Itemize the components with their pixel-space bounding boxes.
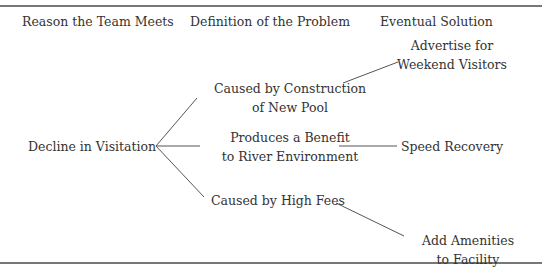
problem-node-3: Caused by High Fees (198, 191, 358, 210)
problem-1-line2: of New Pool (200, 98, 380, 117)
problem-2-line1: Produces a Benefit (200, 128, 380, 147)
solution-3-line2: to Facility (413, 250, 523, 269)
problem-2-line2: to River Environment (200, 147, 380, 166)
solution-2-line1: Speed Recovery (400, 137, 504, 156)
problem-1-line1: Caused by Construction (200, 79, 380, 98)
solution-node-2: Speed Recovery (400, 137, 504, 156)
solution-node-1: Advertise for Weekend Visitors (397, 36, 507, 74)
problem-node-2: Produces a Benefit to River Environment (200, 128, 380, 166)
solution-3-line1: Add Amenities (413, 231, 523, 250)
solution-node-3: Add Amenities to Facility (413, 231, 523, 269)
problem-node-1: Caused by Construction of New Pool (200, 79, 380, 117)
problem-3-line1: Caused by High Fees (198, 191, 358, 210)
solution-1-line1: Advertise for (397, 36, 507, 55)
root-node: Decline in Visitation (28, 137, 152, 156)
solution-1-line2: Weekend Visitors (397, 55, 507, 74)
